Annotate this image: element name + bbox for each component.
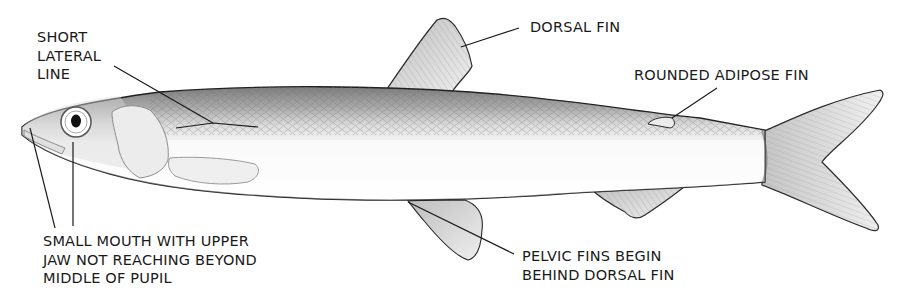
leader-dorsal-fin (461, 28, 519, 47)
label-short-lateral-line: SHORT LATERAL LINE (37, 28, 101, 84)
fish-diagram: SHORT LATERAL LINE SMALL MOUTH WITH UPPE… (0, 0, 903, 297)
label-pelvic-fins: PELVIC FINS BEGIN BEHIND DORSAL FIN (522, 247, 675, 284)
caudal-fin (762, 90, 883, 231)
label-small-mouth: SMALL MOUTH WITH UPPER JAW NOT REACHING … (43, 232, 257, 288)
eye (61, 107, 91, 137)
label-rounded-adipose-fin: ROUNDED ADIPOSE FIN (634, 66, 809, 85)
leader-adipose-fin (672, 88, 717, 118)
dorsal-fin (385, 18, 472, 92)
pelvic-fin (408, 200, 482, 260)
label-dorsal-fin: DORSAL FIN (530, 18, 620, 37)
